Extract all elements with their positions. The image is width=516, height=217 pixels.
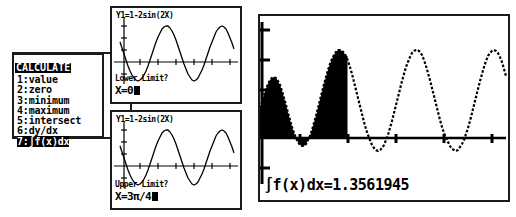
calculator-screen-integral-result[interactable]: ∫f(x)dx=1.3561945: [258, 14, 510, 202]
integral-result-label: ∫f(x)dx=1.3561945: [264, 176, 409, 194]
calculate-menu[interactable]: CALCULATE 1:value 2:zero 3:minimum 4:max…: [12, 53, 104, 138]
calculate-menu-title: CALCULATE: [15, 63, 71, 73]
lower-limit-value[interactable]: X=0: [115, 84, 140, 97]
lower-limit-equation-label: Y1=1-2sin(2X): [116, 11, 173, 20]
text-cursor-icon: [152, 192, 158, 201]
calculator-screen-lower-limit[interactable]: Y1=1-2sin(2X) Lower Limit? X=0: [110, 6, 242, 104]
upper-limit-value[interactable]: X=3π/4: [115, 190, 158, 203]
text-cursor-icon: [134, 86, 140, 95]
lower-limit-value-text: X=0: [115, 84, 133, 97]
calculator-screen-upper-limit[interactable]: Y1=1-2sin(2X) Upper Limit? X=3π/4: [110, 110, 242, 210]
integral-result-plot: [260, 16, 508, 200]
menu-item-integral-f-x-dx[interactable]: 7:∫f(x)dx: [15, 137, 102, 147]
lower-limit-prompt: Lower Limit?: [115, 74, 168, 83]
upper-limit-value-text: X=3π/4: [115, 190, 151, 203]
upper-limit-prompt: Upper Limit?: [115, 180, 168, 189]
upper-limit-equation-label: Y1=1-2sin(2X): [116, 115, 173, 124]
menu-item-selected-highlight: 7:∫f(x)dx: [17, 136, 69, 147]
figure-canvas: CALCULATE 1:value 2:zero 3:minimum 4:max…: [0, 0, 516, 217]
